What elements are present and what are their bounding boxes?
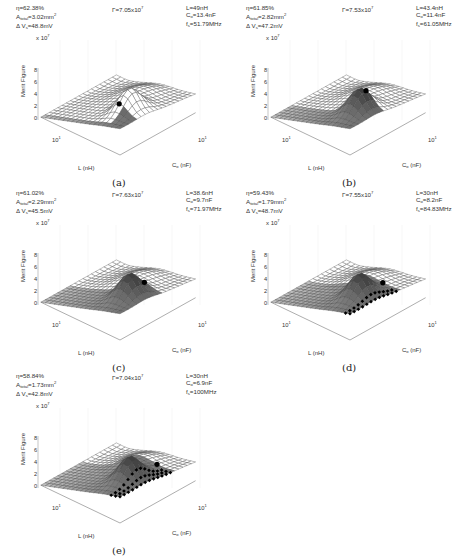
inductance-label: L=38.6nH [186,189,222,196]
panel-caption: (d) [342,362,356,373]
z-tick: 8 [257,252,267,258]
z-axis-label: Merit Figure [20,433,26,465]
x-axis-label: L (nH) [78,533,94,539]
z-tick: 8 [27,67,37,73]
y-axis-label: Co (nF) [172,347,191,354]
capacitance-label: Co=6.9nF [186,379,216,388]
design-parameters: L=49nH Co=13.4nF fs=51.79MHz [186,4,222,29]
x-tick: 101 [52,503,61,511]
z-tick: 0 [27,300,37,306]
x-axis-label: L (nH) [78,350,94,356]
efficiency-label: η=58.84% [16,372,56,379]
y-tick: 101 [428,320,437,328]
performance-annotation: η=61.85% Atotal=2.82mm2 Δ Vs=47.2mV [246,4,286,31]
z-tick: 4 [27,276,37,282]
z-tick: 2 [27,288,37,294]
z-axis-label: Merit Figure [20,65,26,97]
inductance-label: L=49nH [186,4,222,11]
x-tick: 101 [282,135,291,143]
z-axis-label: Merit Figure [250,250,256,282]
z-tick: 6 [257,264,267,270]
z-tick: 0 [27,483,37,489]
panel-caption: (e) [112,545,126,556]
z-tick: 2 [257,103,267,109]
z-tick: 2 [27,103,37,109]
capacitance-label: Co=13.4nF [186,11,222,20]
gamma-label: Γ=7.04x107 [112,372,143,381]
frequency-label: fs=84.83MHz [416,205,452,214]
optimum-point-marker [142,280,147,285]
x-axis-label: L (nH) [308,350,324,356]
capacitance-label: Co=8.2nF [416,196,452,205]
z-tick: 6 [27,264,37,270]
area-label: Atotal=1.79mm2 [246,196,286,207]
optimum-point-marker [380,280,385,285]
z-tick: 4 [27,91,37,97]
z-tick: 4 [27,459,37,465]
optimum-point-marker [363,88,368,93]
area-label: Atotal=1.73mm2 [16,379,56,390]
y-tick: 101 [198,135,207,143]
x-tick: 101 [282,320,291,328]
z-tick: 4 [257,276,267,282]
z-tick: 0 [257,115,267,121]
z-tick: 6 [257,79,267,85]
frequency-label: fs=71.97MHz [186,205,222,214]
z-scale-label: x 107 [266,218,280,226]
z-tick: 6 [27,79,37,85]
frequency-label: fs=51.79MHz [186,20,222,29]
gamma-label: Γ=7.05x107 [112,4,143,13]
inductance-label: L=30nH [186,372,216,379]
x-axis-label: L (nH) [78,165,94,171]
z-scale-label: x 107 [36,33,50,41]
x-tick: 101 [52,135,61,143]
frequency-label: fs=61.05MHz [416,20,452,29]
z-tick: 8 [257,67,267,73]
z-tick: 0 [257,300,267,306]
y-axis-label: Co (nF) [172,162,191,169]
z-tick: 4 [257,91,267,97]
z-tick: 8 [27,252,37,258]
area-label: Atotal=2.82mm2 [246,11,286,22]
gamma-label: Γ=7.53x107 [342,4,373,13]
performance-annotation: η=59.43% Atotal=1.79mm2 Δ Vs=48.7mV [246,189,286,216]
design-parameters: L=30nH Co=8.2nF fs=84.83MHz [416,189,452,214]
gamma-label: Γ=7.55x107 [342,189,373,198]
performance-annotation: η=58.84% Atotal=1.73mm2 Δ Vs=42.8mV [16,372,56,399]
gamma-label: Γ=7.63x107 [112,189,143,198]
x-tick: 101 [52,320,61,328]
design-parameters: L=43.4nH Co=11.4nF fs=61.05MHz [416,4,452,29]
z-tick: 2 [27,471,37,477]
efficiency-label: η=61.02% [16,189,56,196]
voltage-ripple-label: Δ Vs=48.8mV [16,22,56,31]
optimum-point-marker [117,101,122,106]
voltage-ripple-label: Δ Vs=47.2mV [246,22,286,31]
z-axis-label: Merit Figure [250,65,256,97]
design-parameters: L=30nH Co=6.9nF fs=100MHz [186,372,216,397]
y-axis-label: Co (nF) [402,347,421,354]
x-axis-label: L (nH) [308,165,324,171]
voltage-ripple-label: Δ Vs=45.5mV [16,207,56,216]
area-label: Atotal=2.29mm2 [16,196,56,207]
capacitance-label: Co=11.4nF [416,11,452,20]
z-tick: 6 [27,447,37,453]
y-tick: 101 [428,135,437,143]
efficiency-label: η=59.43% [246,189,286,196]
inductance-label: L=43.4nH [416,4,452,11]
efficiency-label: η=61.85% [246,4,286,11]
design-parameters: L=38.6nH Co=9.7nF fs=71.97MHz [186,189,222,214]
capacitance-label: Co=9.7nF [186,196,222,205]
z-tick: 2 [257,288,267,294]
y-axis-label: Co (nF) [172,530,191,537]
z-tick: 8 [27,435,37,441]
z-axis-label: Merit Figure [20,250,26,282]
z-scale-label: x 107 [36,218,50,226]
y-tick: 101 [198,320,207,328]
z-scale-label: x 107 [36,401,50,409]
z-tick: 0 [27,115,37,121]
optimum-point-marker [154,462,159,467]
voltage-ripple-label: Δ Vs=42.8mV [16,390,56,399]
inductance-label: L=30nH [416,189,452,196]
voltage-ripple-label: Δ Vs=48.7mV [246,207,286,216]
performance-annotation: η=61.02% Atotal=2.29mm2 Δ Vs=45.5mV [16,189,56,216]
